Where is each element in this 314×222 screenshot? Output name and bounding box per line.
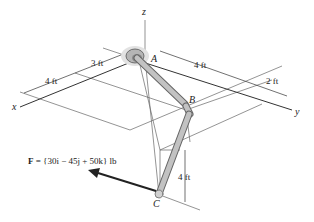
coordinate-axes [20, 60, 292, 110]
point-label-A: A [150, 53, 158, 64]
dimension-4ft-y: 4 ft [194, 60, 207, 70]
force-arrow [88, 168, 156, 191]
dimension-2ft: 2 ft [266, 76, 279, 86]
point-label-C: C [153, 198, 160, 209]
dimension-3ft: 3 ft [91, 58, 104, 68]
x-axis [20, 60, 136, 107]
axis-label-y: y [294, 106, 300, 117]
axis-label-z: z [141, 6, 146, 17]
point-label-B: B [189, 94, 195, 105]
construction-lines [20, 20, 282, 210]
force-label: F = {30i − 45j + 50k} lb [28, 156, 117, 166]
dimension-4ft-x: 4 ft [45, 76, 58, 86]
axis-label-x: x [11, 101, 17, 112]
dimension-4ft-vertical: 4 ft [178, 172, 191, 182]
pipe-assembly-diagram: z x y A B C 4 ft 3 ft 4 ft 2 ft 4 ft F =… [0, 0, 314, 222]
